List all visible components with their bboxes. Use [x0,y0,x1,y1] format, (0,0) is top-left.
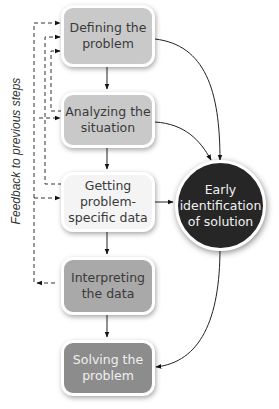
hub-early-identification: Early identification of solution [175,160,266,251]
step-interpreting-data: Interpreting the data [61,257,155,315]
step-label: Solving the problem [73,352,143,384]
step-label: Interpreting the data [71,270,145,302]
feedback-lines [34,23,62,283]
flow-diagram: Feedback to previous steps Defining the … [0,0,279,409]
step-analyzing-situation: Analyzing the situation [61,92,155,148]
hub-label: Early identification of solution [180,182,262,230]
step-getting-data: Getting problem- specific data [61,172,155,232]
step-label: Getting problem- specific data [68,178,147,226]
step-label: Defining the problem [70,20,147,52]
step-defining-problem: Defining the problem [61,5,155,67]
feedback-label: Feedback to previous steps [9,78,23,225]
step-solving-problem: Solving the problem [61,340,155,396]
step-label: Analyzing the situation [65,104,150,136]
